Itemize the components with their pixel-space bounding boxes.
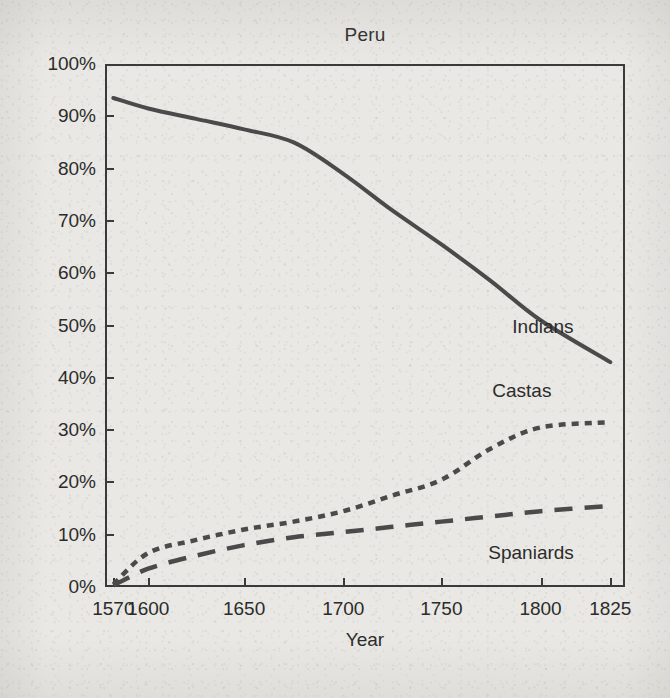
y-tick-label-30: 30% <box>58 419 96 441</box>
y-tick-label-20: 20% <box>58 471 96 493</box>
series-label-castas: Castas <box>492 380 551 402</box>
series-label-indians: Indians <box>512 316 573 338</box>
x-axis-label: Year <box>105 629 625 651</box>
y-tick-label-60: 60% <box>58 262 96 284</box>
y-tick-label-50: 50% <box>58 315 96 337</box>
x-tick-label-1700: 1700 <box>322 598 364 620</box>
y-tick-label-90: 90% <box>58 105 96 127</box>
y-tick-label-0: 0% <box>69 576 96 598</box>
y-tick-label-10: 10% <box>58 524 96 546</box>
x-tick-label-1650: 1650 <box>223 598 265 620</box>
x-tick-label-1825: 1825 <box>589 598 631 620</box>
chart-figure: Peru 0%10%20%30%40%50%60%70%80%90%100% 1… <box>0 0 670 698</box>
chart-title: Peru <box>105 24 625 46</box>
x-tick-label-1600: 1600 <box>127 598 169 620</box>
x-tick-label-1800: 1800 <box>519 598 561 620</box>
y-tick-label-80: 80% <box>58 158 96 180</box>
series-label-spaniards: Spaniards <box>488 542 574 564</box>
y-tick-label-70: 70% <box>58 210 96 232</box>
y-tick-label-100: 100% <box>47 53 96 75</box>
y-tick-label-40: 40% <box>58 367 96 389</box>
x-tick-label-1750: 1750 <box>420 598 462 620</box>
